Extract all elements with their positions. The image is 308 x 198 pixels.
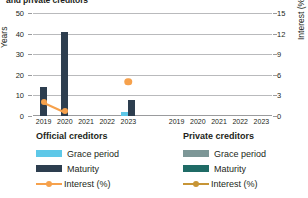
grace-period-bar[interactable] (121, 112, 128, 116)
y-axis-left-tick-label: 10 (2, 91, 24, 100)
y-axis-tick-mark (273, 54, 277, 55)
y-axis-tick-mark (273, 95, 277, 96)
bar-cluster (40, 13, 47, 116)
y-axis-tick-mark (28, 116, 32, 117)
y-axis-left-tick-label: 0 (2, 112, 24, 121)
y-axis-right-tick-label: 12 (277, 30, 297, 39)
legend-item[interactable]: Maturity (183, 161, 308, 176)
y-axis-right-tick-label: 3 (277, 91, 297, 100)
y-axis-tick-mark (273, 34, 277, 35)
y-axis-tick-mark (28, 54, 32, 55)
legend-item[interactable]: Grace period (36, 146, 186, 161)
legend-item-label: Maturity (67, 164, 99, 174)
panel-official-creditors (33, 13, 139, 116)
maturity-swatch-icon (183, 165, 209, 172)
legend-item[interactable]: Maturity (36, 161, 186, 176)
y-axis-tick-mark (273, 116, 277, 117)
y-axis-left-tick-label: 40 (2, 30, 24, 39)
bar-group (187, 13, 208, 116)
y-axis-tick-mark (273, 13, 277, 14)
legend-item-label: Grace period (214, 149, 266, 159)
y-axis-tick-mark (273, 75, 277, 76)
legend-official-title: Official creditors (36, 131, 186, 141)
legend-private-title: Private creditors (183, 131, 308, 141)
legend-item[interactable]: Interest (%) (183, 176, 308, 191)
bar-group (75, 13, 96, 116)
maturity-bar[interactable] (40, 87, 47, 116)
chart-legend: Official creditors Grace period Maturity… (0, 131, 308, 198)
maturity-bar[interactable] (128, 100, 135, 116)
legend-item[interactable]: Interest (%) (36, 176, 186, 191)
bar-group (54, 13, 75, 116)
interest-line-swatch-icon (183, 180, 209, 187)
legend-item-label: Interest (%) (64, 179, 111, 189)
legend-official-creditors: Official creditors Grace period Maturity… (36, 131, 186, 191)
bar-group (118, 13, 139, 116)
chart-title: and private creditors (6, 0, 88, 5)
bar-cluster (61, 13, 68, 116)
bar-group (208, 13, 229, 116)
y-axis-right-tick-label: 6 (277, 71, 297, 80)
y-axis-tick-mark (28, 75, 32, 76)
legend-item-label: Maturity (214, 164, 246, 174)
chart-container: and private creditors Years Interest (%)… (0, 0, 308, 198)
y-axis-right-tick-label: 0 (277, 112, 297, 121)
y-axis-tick-mark (28, 34, 32, 35)
legend-item-label: Interest (%) (211, 179, 258, 189)
legend-item-label: Grace period (67, 149, 119, 159)
bar-group (230, 13, 251, 116)
bar-group (166, 13, 187, 116)
y-axis-tick-mark (28, 95, 32, 96)
y-axis-left-tick-label: 20 (2, 71, 24, 80)
x-axis-tick-label: 2023 (249, 118, 273, 125)
bar-group (251, 13, 272, 116)
interest-line-swatch-icon (36, 180, 62, 187)
bar-group (97, 13, 118, 116)
panel-private-creditors (166, 13, 272, 116)
maturity-bar[interactable] (61, 32, 68, 116)
y-axis-right-title: Interest (%) (296, 0, 306, 40)
bar-cluster (121, 13, 135, 116)
y-axis-right-tick-label: 15 (277, 9, 297, 18)
legend-item[interactable]: Grace period (183, 146, 308, 161)
y-axis-tick-mark (28, 13, 32, 14)
plot-area: 01020304050 03691215 2019202020212022202… (33, 13, 272, 116)
y-axis-left-tick-label: 30 (2, 50, 24, 59)
legend-private-creditors: Private creditors Grace period Maturity … (183, 131, 308, 191)
y-axis-left-tick-label: 50 (2, 9, 24, 18)
bar-group (33, 13, 54, 116)
maturity-swatch-icon (36, 165, 62, 172)
y-axis-right-tick-label: 9 (277, 50, 297, 59)
grace-period-swatch-icon (36, 150, 62, 157)
x-axis-tick-label: 2023 (116, 118, 140, 125)
grace-period-swatch-icon (183, 150, 209, 157)
